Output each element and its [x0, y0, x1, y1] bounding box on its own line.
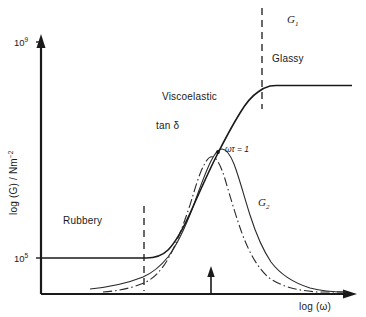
label-region-viscoelastic: Viscoelastic	[162, 91, 217, 102]
label-region-glassy: Glassy	[272, 53, 304, 64]
y-axis-title-group: log (G) / Nm−2	[7, 150, 19, 215]
curve-tan-delta	[103, 157, 346, 292]
viscoelastic-modulus-figure: 109 105 log (G) / Nm−2 log (ω) Rubbery V…	[0, 0, 366, 317]
axes-group	[36, 34, 357, 299]
label-tan-delta: tan δ	[156, 120, 179, 131]
label-curve-g1: G1	[287, 13, 298, 28]
x-axis-title: log (ω)	[299, 301, 331, 312]
label-omega-tau: ωτ = 1	[225, 144, 249, 154]
x-axis-up-arrow-marker	[207, 266, 214, 293]
chart-svg: 109 105 log (G) / Nm−2 log (ω) Rubbery V…	[0, 0, 366, 317]
y-axis-arrowhead	[37, 34, 46, 48]
y-tick-label-1e9: 109	[14, 36, 29, 48]
curve-g2-loss-modulus	[90, 149, 344, 292]
x-axis-arrowhead	[343, 290, 357, 299]
curve-g1-storage-modulus	[41, 86, 352, 259]
label-curve-g2: G2	[258, 196, 270, 211]
y-tick-label-1e5: 105	[14, 252, 29, 264]
label-region-rubbery: Rubbery	[63, 215, 102, 226]
y-axis-title: log (G) / Nm−2	[7, 150, 19, 215]
omega-tau-intersection-point	[216, 150, 220, 154]
